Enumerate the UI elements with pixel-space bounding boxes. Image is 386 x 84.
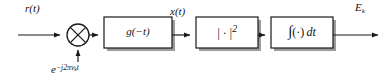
signal-label-input: r(t)	[25, 3, 40, 14]
oscillator-exponent-tail: t	[77, 63, 79, 72]
signal-label-local-oscillator: e−j2πνkt	[51, 64, 79, 75]
integral-operand: (·)	[292, 25, 304, 39]
block-diagram: r(t) x(t) Ek e−j2πνkt g(−t) | · |2 ∫(·) …	[0, 0, 386, 84]
block-label-magnitude-squared: | · |2	[196, 24, 258, 39]
signal-label-intermediate: x(t)	[170, 6, 185, 17]
oscillator-exponent-main: −j2πν	[56, 63, 74, 72]
multiplier-node	[67, 24, 89, 46]
block-label-integrator: ∫(·) dt	[271, 24, 333, 39]
block-label-matched-filter: g(−t)	[104, 26, 172, 37]
signal-label-output: Ek	[355, 2, 365, 14]
magnitude-exponent: 2	[232, 23, 237, 34]
output-label-subscript: k	[362, 7, 365, 14]
magnitude-bars: | · |	[217, 26, 233, 40]
integral-differential: dt	[307, 25, 316, 39]
oscillator-exponent: −j2πνkt	[56, 63, 79, 72]
output-label-base: E	[355, 1, 362, 13]
